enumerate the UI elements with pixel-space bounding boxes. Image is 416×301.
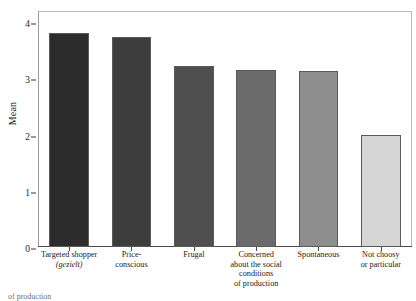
x-axis-label-line: (gezielt) bbox=[37, 260, 101, 270]
y-tick-label: 4 bbox=[25, 19, 30, 29]
figure-caption: of production bbox=[8, 292, 408, 301]
bar[interactable] bbox=[174, 66, 214, 247]
x-axis-label: Price-conscious bbox=[100, 250, 164, 269]
y-tick-mark bbox=[31, 192, 36, 193]
bar-slot bbox=[163, 11, 225, 247]
bar[interactable] bbox=[236, 70, 276, 247]
y-tick-label: 1 bbox=[25, 188, 30, 198]
bar-slot bbox=[350, 11, 412, 247]
bar-slot bbox=[100, 11, 162, 247]
x-axis-label-line: about the social bbox=[224, 260, 288, 270]
bar-slot bbox=[225, 11, 287, 247]
x-axis-label-line: or particular bbox=[349, 260, 413, 270]
x-axis-label: Concernedabout the socialconditionsof pr… bbox=[224, 250, 288, 288]
y-tick-mark bbox=[31, 136, 36, 137]
bar-slot bbox=[287, 11, 349, 247]
x-axis-label-line: Concerned bbox=[224, 250, 288, 260]
bar[interactable] bbox=[112, 37, 152, 247]
y-tick-label: 3 bbox=[25, 75, 30, 85]
x-axis-label-line: Price- bbox=[100, 250, 164, 260]
x-axis-label-line: of production bbox=[224, 279, 288, 289]
bar-series bbox=[38, 11, 412, 247]
bar[interactable] bbox=[49, 33, 89, 247]
x-axis-label: Spontaneous bbox=[287, 250, 351, 260]
y-tick-label: 2 bbox=[25, 132, 30, 142]
y-tick-mark bbox=[31, 249, 36, 250]
y-axis-ticks: 01234 bbox=[0, 13, 38, 245]
x-axis-label: Frugal bbox=[162, 250, 226, 260]
y-tick-label: 0 bbox=[25, 244, 30, 254]
bar[interactable] bbox=[361, 135, 401, 247]
x-axis-label: Targeted shopper(gezielt) bbox=[37, 250, 101, 269]
x-axis-label-line: Frugal bbox=[162, 250, 226, 260]
y-tick-mark bbox=[31, 24, 36, 25]
x-axis-label: Not choosyor particular bbox=[349, 250, 413, 269]
bar-slot bbox=[38, 11, 100, 247]
x-axis-label-line: Targeted shopper bbox=[37, 250, 101, 260]
x-axis-label-line: conditions bbox=[224, 269, 288, 279]
bar[interactable] bbox=[299, 71, 339, 247]
x-axis-label-line: Spontaneous bbox=[287, 250, 351, 260]
x-axis-label-line: Not choosy bbox=[349, 250, 413, 260]
y-tick-mark bbox=[31, 80, 36, 81]
x-axis-label-line: conscious bbox=[100, 260, 164, 270]
x-axis-labels: Targeted shopper(gezielt)Price-conscious… bbox=[38, 250, 412, 298]
